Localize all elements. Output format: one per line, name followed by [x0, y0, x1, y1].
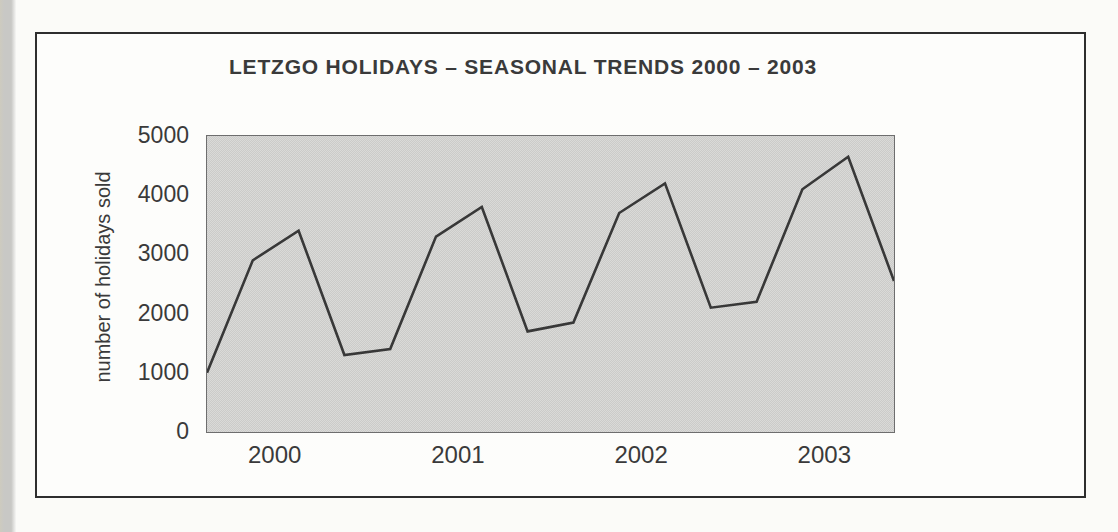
y-axis-title: number of holidays sold	[92, 171, 115, 382]
x-tick-label: 2002	[614, 442, 667, 468]
y-tick-label: 0	[176, 420, 189, 443]
y-axis-tick-labels: 010002000300040005000	[117, 135, 189, 431]
x-axis-tick-labels: 2000200120022003	[206, 442, 895, 474]
y-tick-label: 4000	[138, 183, 189, 206]
y-tick-label: 3000	[138, 242, 189, 265]
chart-title: LETZGO HOLIDAYS – SEASONAL TRENDS 2000 –…	[37, 55, 1009, 79]
y-tick-label: 5000	[138, 124, 189, 147]
x-tick-label: 2001	[431, 442, 484, 468]
chart-figure-frame: LETZGO HOLIDAYS – SEASONAL TRENDS 2000 –…	[35, 32, 1086, 498]
seasonal-trend-line-chart	[207, 136, 894, 432]
plot-area	[206, 135, 895, 433]
x-tick-label: 2003	[798, 442, 851, 468]
holidays-sold-trend-line	[207, 157, 894, 373]
scanned-page-edge-strip	[0, 0, 16, 532]
y-tick-label: 1000	[138, 360, 189, 383]
y-tick-label: 2000	[138, 301, 189, 324]
x-tick-label: 2000	[248, 442, 301, 468]
